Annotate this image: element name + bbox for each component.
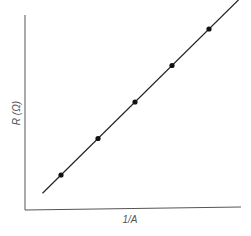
data-point [206,26,211,31]
chart-plot-area [0,0,251,236]
y-axis-label: R (Ω) [10,98,24,128]
x-axis [25,207,241,210]
data-point [132,99,137,104]
data-point [169,63,174,68]
data-point [58,172,63,177]
data-point [95,136,100,141]
x-axis-label: 1/A [110,214,150,225]
